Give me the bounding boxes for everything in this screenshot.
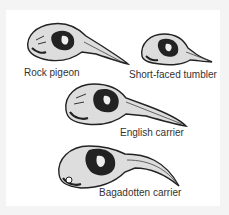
label-bagadotten-carrier: Bagadotten carrier [99,187,181,198]
bagadotten-carrier-skull-illustration [55,142,185,192]
english-carrier-skull-illustration [60,80,190,130]
short-faced-tumbler-skull-illustration [138,30,214,68]
label-english-carrier: English carrier [120,127,184,138]
rock-pigeon-skull-illustration [22,18,132,66]
label-short-faced-tumbler: Short-faced tumbler [129,69,217,80]
label-rock-pigeon: Rock pigeon [24,67,80,78]
